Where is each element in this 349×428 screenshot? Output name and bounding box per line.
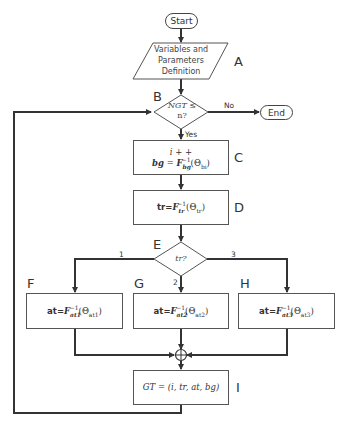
node-d-lhs: tr= — [157, 202, 172, 212]
node-b-text: NGT ≤ n? — [160, 101, 204, 122]
node-f-arg: (Θ — [79, 306, 89, 316]
node-b-line1: NGT ≤ — [160, 101, 204, 111]
node-letter-e: E — [153, 238, 161, 251]
node-letter-h: H — [240, 277, 250, 290]
node-f-arg-close: ) — [99, 306, 102, 316]
node-c-eq: = — [164, 158, 177, 168]
node-d-func-sub: tr — [178, 207, 184, 214]
node-e-text: tr? — [160, 254, 202, 264]
node-a-line1: Variables and — [154, 45, 208, 56]
node-f-arg-sub: at1 — [89, 310, 99, 317]
node-letter-i: I — [236, 381, 240, 394]
node-a-text: Variables and Parameters Definition — [143, 44, 219, 79]
node-letter-f: F — [27, 277, 34, 290]
node-g-arg: (Θ — [185, 306, 195, 316]
node-c-arg-close: ) — [207, 158, 210, 168]
edge-label-no: No — [224, 102, 234, 110]
process-box-i: GT = (i, tr, at, bg) — [133, 370, 229, 405]
node-letter-g: G — [134, 277, 144, 290]
node-d-arg: (Θ — [186, 202, 196, 212]
node-c-func-sub: bg — [183, 162, 191, 169]
process-box-f: at=Fat1−1(Θat1) — [26, 293, 123, 329]
node-g-arg-sub: at2 — [195, 310, 205, 317]
merge-sum-icon — [176, 350, 187, 361]
node-g-lhs: at= — [154, 306, 171, 316]
start-label: Start — [171, 16, 193, 26]
node-g-arg-close: ) — [205, 306, 208, 316]
node-h-formula: at=Fat3−1(Θat3) — [259, 306, 314, 317]
end-terminal: End — [260, 105, 293, 120]
end-label: End — [268, 108, 285, 118]
node-f-func-sup: −1 — [70, 304, 79, 311]
node-d-arg-close: ) — [202, 202, 205, 212]
process-box-g: at=Fat2−1(Θat2) — [133, 293, 229, 329]
edge-label-branch-1: 1 — [119, 251, 124, 259]
edge-label-branch-3: 3 — [231, 251, 236, 259]
node-h-arg: (Θ — [291, 306, 301, 316]
node-f-formula: at=Fat1−1(Θat1) — [47, 306, 102, 317]
edge-label-branch-2: 2 — [173, 279, 178, 287]
node-c-formula: bg = Fbg−1(Θbi) — [152, 158, 210, 169]
node-f-lhs: at= — [47, 306, 64, 316]
node-letter-a: A — [234, 55, 243, 68]
node-letter-c: C — [234, 151, 243, 164]
node-g-formula: at=Fat2−1(Θat2) — [154, 306, 209, 317]
node-letter-d: D — [234, 201, 244, 214]
process-box-c: i + + bg = Fbg−1(Θbi) — [133, 140, 229, 175]
node-h-func-sup: −1 — [282, 304, 291, 311]
start-terminal: Start — [165, 13, 198, 29]
node-h-arg-sub: at3 — [301, 310, 311, 317]
node-i-text: GT = (i, tr, at, bg) — [143, 382, 219, 393]
node-d-func-sup: −1 — [177, 200, 186, 207]
process-box-h: at=Fat3−1(Θat3) — [238, 293, 335, 329]
node-letter-b: B — [153, 90, 162, 103]
node-g-func-sup: −1 — [176, 304, 185, 311]
node-c-lhs: bg — [152, 158, 164, 168]
node-h-lhs: at= — [259, 306, 276, 316]
node-b-line2: n? — [160, 111, 204, 121]
node-a-line3: Definition — [162, 67, 201, 78]
node-d-formula: tr=Ftr−1(Θtr) — [157, 202, 205, 213]
node-h-arg-close: ) — [311, 306, 314, 316]
node-c-arg: (Θ — [191, 158, 201, 168]
node-c-func-sup: −1 — [182, 156, 191, 163]
node-a-line2: Parameters — [158, 56, 204, 67]
process-box-d: tr=Ftr−1(Θtr) — [133, 190, 229, 225]
edge-label-yes: Yes — [185, 131, 197, 139]
